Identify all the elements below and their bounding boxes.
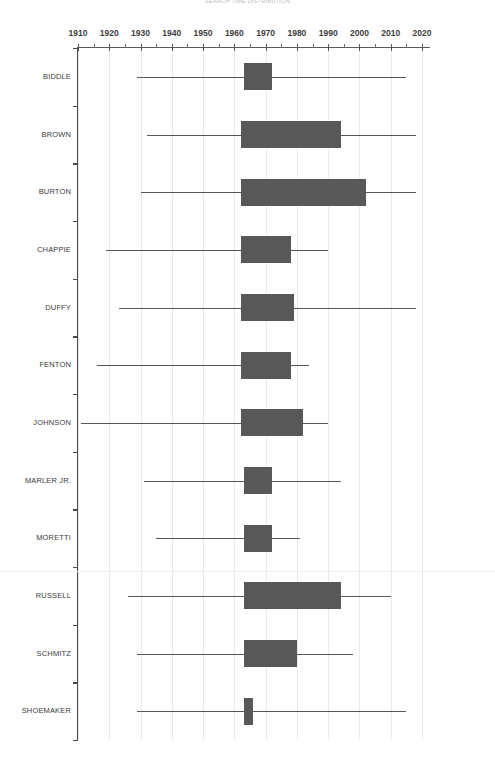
gridlines: [78, 48, 422, 740]
y-tick-7: [73, 452, 78, 453]
x-tick-label-2020: 2020: [402, 28, 442, 38]
box-brown: [241, 121, 341, 148]
x-tick-1985: [313, 44, 314, 48]
gridline-1930: [141, 48, 142, 740]
box-biddle: [244, 63, 272, 90]
y-tick-6: [73, 394, 78, 395]
y-axis-label-chappie: CHAPPIE: [0, 245, 71, 254]
whisker-shoemaker: [137, 711, 406, 712]
gridline-1960: [234, 48, 235, 740]
y-tick-5: [73, 336, 78, 337]
box-fenton: [241, 352, 291, 379]
whisker-marler-jr: [144, 481, 341, 482]
chart-title: SEARCH TIME DISTRIBUTION: [0, 0, 495, 4]
box-johnson: [241, 409, 304, 436]
gridline-1910: [78, 48, 79, 740]
x-tick-1970: [266, 44, 267, 51]
y-tick-2: [73, 163, 78, 164]
y-axis-label-biddle: BIDDLE: [0, 72, 71, 81]
gridline-1980: [297, 48, 298, 740]
x-tick-2015: [406, 44, 407, 48]
x-tick-1965: [250, 44, 251, 48]
x-tick-1930: [141, 44, 142, 51]
y-axis-label-moretti: MORETTI: [0, 533, 71, 542]
y-axis-label-schmitz: SCHMITZ: [0, 649, 71, 658]
box-marler-jr: [244, 467, 272, 494]
box-chappie: [241, 236, 291, 263]
x-tick-1935: [156, 44, 157, 48]
x-tick-1975: [281, 44, 282, 48]
y-tick-12: [73, 740, 78, 741]
x-tick-1945: [187, 44, 188, 48]
gridline-2010: [391, 48, 392, 740]
y-axis-label-fenton: FENTON: [0, 360, 71, 369]
boxplot-chart: SEARCH TIME DISTRIBUTION 191019201930194…: [0, 0, 495, 769]
x-tick-1955: [219, 44, 220, 48]
gridline-1920: [109, 48, 110, 740]
gridline-2000: [359, 48, 360, 740]
x-tick-1950: [203, 44, 204, 51]
x-tick-1980: [297, 44, 298, 51]
y-tick-11: [73, 682, 78, 683]
whisker-moretti: [156, 538, 300, 539]
page-fold-line: [0, 571, 495, 572]
y-axis-label-duffy: DUFFY: [0, 303, 71, 312]
box-moretti: [244, 525, 272, 552]
box-burton: [241, 179, 366, 206]
y-axis-label-russell: RUSSELL: [0, 591, 71, 600]
x-tick-1940: [172, 44, 173, 51]
x-tick-2010: [391, 44, 392, 51]
y-tick-8: [73, 509, 78, 510]
y-tick-9: [73, 567, 78, 568]
gridline-1970: [266, 48, 267, 740]
x-tick-1925: [125, 44, 126, 48]
x-tick-2000: [359, 44, 360, 51]
y-tick-4: [73, 279, 78, 280]
gridline-1950: [203, 48, 204, 740]
y-axis-label-marler-jr: MARLER JR.: [0, 476, 71, 485]
y-tick-1: [73, 106, 78, 107]
y-axis-label-burton: BURTON: [0, 187, 71, 196]
y-axis-label-johnson: JOHNSON: [0, 418, 71, 427]
x-tick-1915: [94, 44, 95, 48]
box-russell: [244, 582, 341, 609]
y-tick-0: [73, 48, 78, 49]
y-axis-label-brown: BROWN: [0, 130, 71, 139]
x-tick-2020: [422, 44, 423, 51]
box-schmitz: [244, 640, 297, 667]
x-tick-1910: [78, 44, 79, 51]
y-axis-label-shoemaker: SHOEMAKER: [0, 706, 71, 715]
gridline-2020: [422, 48, 423, 740]
x-tick-1995: [344, 44, 345, 48]
x-tick-2005: [375, 44, 376, 48]
x-tick-1920: [109, 44, 110, 51]
x-tick-1960: [234, 44, 235, 51]
gridline-1990: [328, 48, 329, 740]
gridline-1940: [172, 48, 173, 740]
whisker-chappie: [106, 250, 328, 251]
box-shoemaker: [244, 698, 253, 725]
y-tick-3: [73, 221, 78, 222]
box-duffy: [241, 294, 294, 321]
whisker-biddle: [137, 77, 406, 78]
x-tick-1990: [328, 44, 329, 51]
y-tick-10: [73, 625, 78, 626]
